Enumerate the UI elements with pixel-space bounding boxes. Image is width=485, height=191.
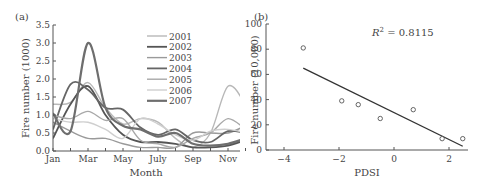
scatter-point (461, 136, 465, 140)
r-value: = 0.8115 (384, 27, 434, 38)
legend-label-2007: 2007 (169, 96, 192, 106)
panel-a-y-label: Fire number (1000) (20, 38, 31, 138)
scatter-point (301, 46, 305, 50)
x-tick-label: May (113, 154, 134, 164)
x-tick-label: −2 (332, 154, 345, 164)
legend-label-2003: 2003 (169, 53, 192, 63)
x-tick-label: Nov (219, 154, 238, 164)
y-tick-label: 1.5 (36, 92, 51, 102)
x-tick-label: Mar (79, 154, 99, 164)
panel-a-legend: 2001200220032004200520062007 (147, 32, 192, 107)
legend-label-2001: 2001 (169, 32, 192, 42)
legend-label-2002: 2002 (169, 42, 192, 52)
legend-label-2004: 2004 (169, 64, 192, 74)
regression-line (303, 68, 463, 146)
y-tick-label: 2.5 (36, 56, 51, 66)
scatter-point (356, 102, 360, 106)
panel-a-x-label: Month (129, 167, 163, 178)
x-tick-label: −4 (277, 154, 291, 164)
y-tick-label: 0.5 (36, 128, 51, 138)
x-tick-label: 0 (391, 154, 397, 164)
panel-b-scatter-chart: (b) 020406080100 −4−202 R2 = 0.8115 PDSI… (245, 11, 468, 178)
y-tick-label: 2.0 (36, 74, 51, 84)
panel-a-label: (a) (15, 11, 29, 22)
y-tick-label: 100 (245, 19, 262, 29)
scatter-point (378, 116, 382, 120)
y-tick-label: 3.5 (36, 20, 51, 30)
panel-a-x-ticks: JanMarMayJulySepNov (45, 148, 246, 164)
legend-label-2005: 2005 (169, 75, 192, 85)
x-tick-label: Sep (184, 154, 201, 164)
y-tick-label: 3.0 (36, 38, 51, 48)
legend-label-2006: 2006 (169, 86, 192, 96)
panel-b-x-label: PDSI (354, 167, 380, 178)
scatter-point (440, 136, 444, 140)
scatter-point (411, 107, 415, 111)
x-tick-label: 2 (446, 154, 452, 164)
panel-b-y-label: Fire number (10,000) (249, 35, 260, 145)
panel-a-series-lines (53, 43, 246, 149)
panel-b-r-squared-annotation: R2 = 0.8115 (371, 26, 434, 38)
panel-a-line-chart: (a) 0.00.51.01.52.02.53.03.5 JanMarMayJu… (15, 11, 246, 178)
y-tick-label: 0 (256, 145, 262, 155)
scatter-point (340, 99, 344, 103)
figure-canvas: (a) 0.00.51.01.52.02.53.03.5 JanMarMayJu… (0, 0, 485, 191)
x-tick-label: July (148, 154, 167, 164)
panel-b-data-points (301, 46, 465, 141)
panel-b-trendline (303, 68, 463, 146)
y-tick-label: 1.0 (36, 110, 51, 120)
x-tick-label: Jan (45, 154, 61, 164)
